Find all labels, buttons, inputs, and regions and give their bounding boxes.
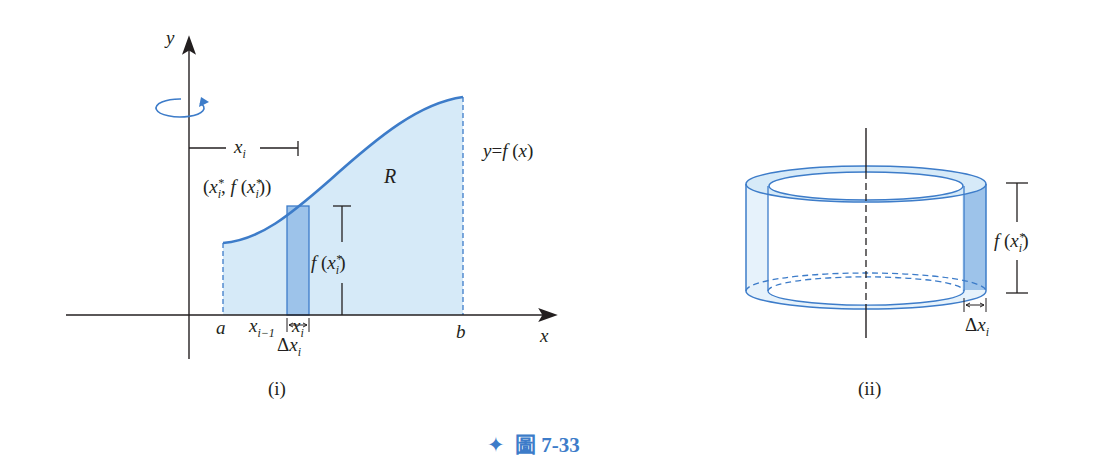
dist-label-xi: xi [233, 136, 246, 161]
caption-ii: (ii) [858, 378, 881, 400]
y-axis-label: y [164, 27, 175, 48]
caption-i: (i) [268, 378, 286, 400]
tick-b: b [456, 321, 466, 342]
tick-x-i-minus-1: xi−1 [248, 315, 275, 340]
strip-rectangle [287, 206, 309, 315]
figure-canvas: xi (x*i, f (x*i)) R y=f (x) f (x*i) a xi… [0, 0, 1104, 471]
height-label-ii: f (x*i) [994, 230, 1028, 255]
region-label: R [383, 165, 396, 187]
figure-title: ✦圖 7-33 [487, 428, 580, 458]
tick-a: a [216, 317, 226, 338]
rotation-arrow-icon [156, 97, 209, 117]
width-label-ii: Δxi [965, 314, 989, 339]
panel-ii: f (x*i) Δxi [746, 128, 1028, 339]
point-label: (x*i, f (x*i)) [203, 176, 271, 201]
curve-label: y=f (x) [481, 140, 533, 162]
panel-i: xi (x*i, f (x*i)) R y=f (x) f (x*i) a xi… [66, 27, 555, 359]
width-label-i: Δxi [277, 334, 301, 359]
figure-label: 圖 7-33 [515, 433, 580, 457]
star-icon: ✦ [487, 433, 505, 457]
x-axis-label: x [539, 325, 549, 346]
